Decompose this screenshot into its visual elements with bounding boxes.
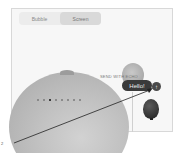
page-dot-5[interactable]: [61, 99, 63, 101]
balloon-string: [132, 92, 133, 132]
page-dot-4[interactable]: [55, 99, 57, 101]
message-bubble: Hello!: [122, 80, 152, 91]
dark-balloon-effect: [143, 99, 159, 119]
arrow-up-icon: ↑: [155, 84, 158, 90]
tab-bubble[interactable]: Bubble: [19, 12, 60, 25]
page-dot-1[interactable]: [37, 99, 39, 101]
effect-type-segmented-control: Bubble Screen: [19, 12, 101, 25]
send-with-effect-label: SEND WITH ECHO: [100, 74, 138, 79]
page-dot-3[interactable]: [49, 99, 51, 101]
message-text: Hello!: [129, 83, 144, 89]
send-button[interactable]: ↑: [152, 82, 161, 91]
page-dot-7[interactable]: [73, 99, 75, 101]
page-dot-2[interactable]: [43, 99, 45, 101]
tab-screen[interactable]: Screen: [60, 12, 101, 25]
page-dot-8[interactable]: [79, 99, 81, 101]
page-dot-6[interactable]: [67, 99, 69, 101]
callout-label: 2: [1, 141, 3, 146]
balloon-knot: [60, 70, 74, 75]
effect-page-indicator[interactable]: [37, 99, 81, 101]
dark-balloon-knot: [150, 118, 153, 120]
